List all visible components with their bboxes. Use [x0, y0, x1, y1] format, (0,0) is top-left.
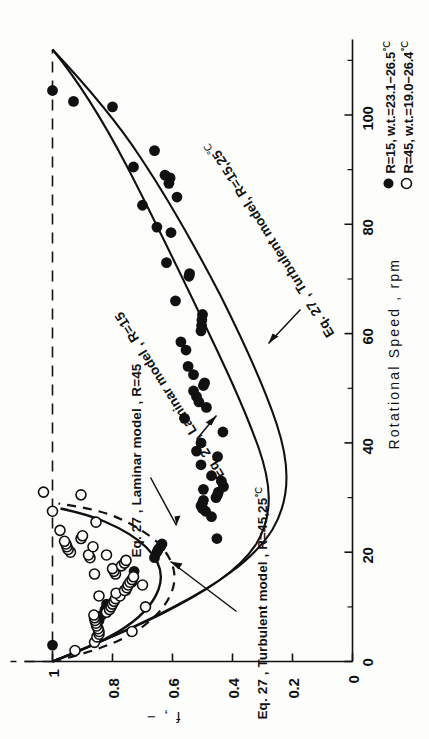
data-point [47, 639, 58, 650]
legend-text-r15: R=15, w.t.=23.1−26.5 [382, 51, 397, 173]
data-point [211, 533, 222, 544]
data-point [76, 489, 86, 499]
curve-turbulent-r15 [52, 49, 286, 661]
legend-label-r45: R=45, w.t.=19.0−26.4℃ [398, 41, 415, 173]
data-point [188, 385, 199, 396]
x-axis-title: Rotational Speed , rpm [385, 257, 401, 449]
data-point [182, 361, 193, 372]
legend-text-r45: R=45, w.t.=19.0−26.4 [400, 51, 415, 173]
y-tick-label-0p6: 0.6 [164, 678, 181, 698]
data-point [151, 221, 162, 232]
data-point [47, 506, 57, 516]
data-point [91, 517, 101, 527]
legend-label-r15: R=15, w.t.=23.1−26.5℃ [380, 41, 397, 173]
annotation-laminar-r45-text: Eq. 27 , Laminar model , R=45 [128, 363, 143, 557]
data-point [88, 610, 98, 620]
x-tick-label-60: 60 [358, 328, 375, 344]
data-point [156, 538, 167, 549]
data-point [47, 85, 58, 96]
data-point [165, 227, 176, 238]
annotation-turbulent-r45-text: Eq. 27 , Turbulent model , R=45,25 [255, 497, 270, 719]
y-tick-label-1: 1 [44, 669, 61, 677]
data-point [107, 563, 117, 573]
data-point [217, 426, 228, 437]
data-point [198, 494, 209, 505]
y-tick-label-0: 0 [344, 675, 361, 683]
x-tick-label-80: 80 [358, 219, 375, 235]
y-tick-label-0p8: 0.8 [104, 678, 121, 698]
annotation-leaders [150, 309, 300, 611]
data-point [161, 257, 172, 268]
legend-unit-r15: ℃ [380, 41, 391, 52]
annotation-turbulent-r45: Eq. 27 , Turbulent model , R=45,25℃ [252, 486, 270, 719]
figure-frame: 0 20 40 60 80 100 Rotational Speed , rpm… [0, 0, 429, 739]
x-tick-label-100: 100 [358, 106, 375, 130]
y-tick-label-0p2: 0.2 [284, 678, 301, 698]
data-point [140, 601, 150, 611]
data-point [38, 487, 48, 497]
data-point [55, 525, 65, 535]
x-tick-label-0: 0 [358, 658, 375, 666]
data-point [128, 161, 139, 172]
data-point [107, 101, 118, 112]
data-point [70, 645, 80, 655]
x-tick-label-20: 20 [358, 547, 375, 563]
data-point [88, 541, 98, 551]
data-point [128, 571, 138, 581]
data-point [101, 549, 111, 559]
data-point [59, 536, 69, 546]
data-point [171, 191, 182, 202]
data-point [77, 530, 87, 540]
annotation-laminar-r45: Eq. 27 , Laminar model , R=45 [128, 363, 143, 557]
legend-markers [383, 178, 411, 188]
data-point [159, 169, 170, 180]
data-point [137, 580, 147, 590]
x-tick-label-40: 40 [358, 438, 375, 454]
data-point [89, 569, 99, 579]
data-point [149, 145, 160, 156]
data-point [127, 626, 137, 636]
data-point [170, 295, 181, 306]
figure-page: 0 20 40 60 80 100 Rotational Speed , rpm… [0, 0, 429, 739]
data-point [68, 96, 79, 107]
data-point [184, 268, 195, 279]
y-tick-label-0p4: 0.4 [224, 678, 241, 698]
legend-unit-r45: ℃ [398, 41, 409, 52]
data-point [175, 336, 186, 347]
y-axis-title: f , − [145, 708, 180, 725]
data-point [94, 590, 104, 600]
data-point [198, 483, 209, 494]
data-point [137, 199, 148, 210]
y-axis-ticks [52, 653, 352, 661]
annotation-turbulent-r45-unit: ℃ [252, 486, 263, 497]
data-point [199, 377, 210, 388]
